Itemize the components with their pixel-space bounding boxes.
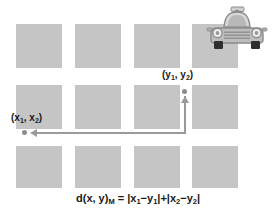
node-dot-x [22,130,27,135]
point-label-y-mid: , y [175,69,186,80]
point-label-x-mid: , x [24,112,35,123]
city-block-r0c2 [134,24,180,68]
taxi-car-front-view [206,6,268,50]
city-block-r1c1 [75,85,121,129]
point-label-y-open: (y [162,69,171,80]
point-label-y-sub2: 2 [186,74,190,81]
formula-term2-end: | [197,192,200,204]
formula-equals: = [118,192,124,204]
arrow-up-icon [181,96,189,103]
point-label-y-close: ) [190,69,193,80]
node-dot-y [182,89,187,94]
city-block-r2c1 [75,146,121,188]
point-label-x-open: (x [11,112,20,123]
formula-lhs: d(x, y) [76,192,108,204]
formula-term2-open: |x [167,192,176,204]
formula-lhs-subscript: M [108,197,114,206]
formula-term2-mid: −y [180,192,193,204]
formula-term2-sub2: 2 [193,197,197,206]
distance-formula: d(x, y)M = |x1−y1|+|x2−y2| [0,192,276,204]
formula-term1-sub2: 1 [153,197,157,206]
path-horizontal-segment [34,132,186,134]
point-label-x-sub1: 1 [20,117,24,124]
city-block-r2c3 [192,146,238,188]
point-label-y-sub1: 1 [171,74,175,81]
point-label-x-sub2: 2 [35,117,39,124]
point-label-y: (y1, y2) [162,70,193,80]
city-block-r2c0 [16,146,62,188]
point-label-x: (x1, x2) [11,113,42,123]
city-block-r1c3 [192,85,238,129]
city-block-r1c2 [134,85,180,129]
city-block-r0c1 [75,24,121,68]
formula-term1-sub1: 1 [136,197,140,206]
city-block-r0c0 [16,24,62,68]
formula-term1-mid: −y [141,192,154,204]
manhattan-distance-diagram: (y1, y2) (x1, x2) d(x, y)M = |x1−y1|+|x2… [0,0,276,224]
formula-term2-sub1: 2 [176,197,180,206]
city-block-r2c2 [134,146,180,188]
point-label-x-close: ) [39,112,42,123]
arrow-left-icon [30,129,37,137]
